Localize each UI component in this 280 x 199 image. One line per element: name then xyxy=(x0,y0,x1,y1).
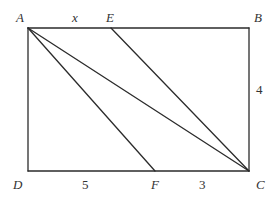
measure-df: 5 xyxy=(82,177,89,192)
label-e: E xyxy=(105,10,114,25)
segment-ac xyxy=(28,28,249,171)
label-d: D xyxy=(12,177,23,192)
measure-bc: 4 xyxy=(256,82,263,97)
segment-ec xyxy=(111,28,249,171)
label-a: A xyxy=(15,10,24,25)
label-c: C xyxy=(256,177,265,192)
label-f: F xyxy=(150,177,160,192)
segment-af xyxy=(28,28,155,171)
measure-ae: x xyxy=(71,10,78,25)
measure-fc: 3 xyxy=(199,177,206,192)
geometry-diagram: A E B D F C x 4 5 3 xyxy=(0,0,280,199)
label-b: B xyxy=(254,10,262,25)
